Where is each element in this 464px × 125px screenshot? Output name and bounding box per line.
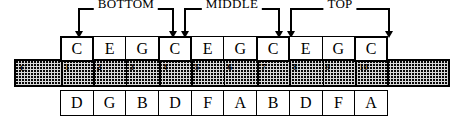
bracket-leg-left xyxy=(78,8,80,20)
draw-note-cell: F xyxy=(322,90,356,116)
draw-note-cell: D xyxy=(158,90,192,116)
bracket-label-bottom: BOTTOM xyxy=(94,0,158,11)
blow-note-cell: C xyxy=(256,36,290,62)
bracket-label-top: TOP xyxy=(323,0,356,11)
draw-note-cell: B xyxy=(125,90,159,116)
hole-number: 4 xyxy=(163,62,168,72)
hole-number: 7 xyxy=(261,62,266,72)
hole-number: 9 xyxy=(326,62,331,72)
blow-note-cell: C xyxy=(354,36,388,62)
rail-key-label: C xyxy=(20,63,27,73)
draw-note-cell: A xyxy=(354,90,388,116)
draw-note-cell: G xyxy=(93,90,127,116)
draw-note-cell: D xyxy=(289,90,323,116)
hole-number: 5 xyxy=(195,62,200,72)
bracket-bottom: BOTTOM xyxy=(78,8,174,34)
hole-cell: 7 xyxy=(257,61,291,85)
hole-cell: 1 xyxy=(61,61,95,85)
hole-number: 3 xyxy=(129,62,134,72)
hole-number: 1 xyxy=(65,62,70,72)
hole-cell: 6 xyxy=(224,61,258,85)
draw-note-cell: A xyxy=(223,90,257,116)
blow-note-cell: C xyxy=(60,36,94,62)
hole-cell: 4 xyxy=(159,61,193,85)
draw-note-cell: D xyxy=(60,90,94,116)
draw-note-row: DGBDFABDFA xyxy=(60,90,397,116)
diagram-canvas: BOTTOM MIDDLE TOP xyxy=(0,0,464,125)
hole-cell: 5 xyxy=(192,61,226,85)
hole-number: 10 xyxy=(359,62,368,72)
blow-note-cell: C xyxy=(158,36,192,62)
bracket-leg-right xyxy=(172,8,174,20)
hole-cell: 10 xyxy=(355,61,389,85)
harmonica-body-rail: C 12345678910 xyxy=(14,59,450,87)
draw-note-cell: F xyxy=(191,90,225,116)
hole-number: 6 xyxy=(227,62,232,72)
bracket-leg-right xyxy=(388,8,390,20)
hole-number: 2 xyxy=(97,62,102,72)
bracket-top: TOP xyxy=(290,8,390,34)
hole-number-cells: 12345678910 xyxy=(62,61,389,85)
bracket-label-middle: MIDDLE xyxy=(202,0,262,11)
bracket-band: BOTTOM MIDDLE TOP xyxy=(0,0,464,36)
hole-cell: 8 xyxy=(290,61,324,85)
bracket-middle: MIDDLE xyxy=(184,8,280,34)
hole-cell: 2 xyxy=(94,61,128,85)
bracket-leg-left xyxy=(184,8,186,20)
hole-number: 8 xyxy=(293,62,298,72)
bracket-leg-left xyxy=(290,8,292,20)
bracket-leg-right xyxy=(278,8,280,20)
hole-cell: 3 xyxy=(126,61,160,85)
draw-note-cell: B xyxy=(256,90,290,116)
hole-cell: 9 xyxy=(323,61,357,85)
